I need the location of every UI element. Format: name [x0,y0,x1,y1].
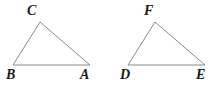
vertex-label-c: C [27,4,36,18]
triangle-def-outline [128,22,205,65]
vertex-label-f: F [144,4,153,18]
vertex-label-d: D [120,68,130,82]
vertex-label-e: E [196,68,205,82]
vertex-label-a: A [80,68,89,82]
vertex-label-b: B [6,68,15,82]
geometry-figure-canvas: C A B F E D [0,0,220,88]
triangle-abc-outline [13,22,90,65]
